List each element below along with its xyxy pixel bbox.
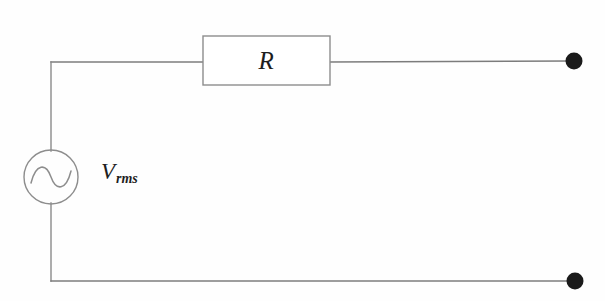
- resistor-symbol: [203, 36, 330, 85]
- circuit-diagram: R Vrms: [0, 0, 605, 301]
- output-terminal-top-dot: [566, 53, 583, 70]
- wire-group: [51, 61, 570, 281]
- sine-wave-icon: [31, 167, 71, 187]
- wire-top-right: [329, 61, 569, 62]
- resistor-box: [203, 36, 330, 85]
- circuit-schematic-canvas: [0, 0, 605, 301]
- output-terminal-bottom-dot: [567, 273, 584, 290]
- terminal-group: [566, 53, 584, 290]
- ac-source-symbol: [24, 150, 78, 204]
